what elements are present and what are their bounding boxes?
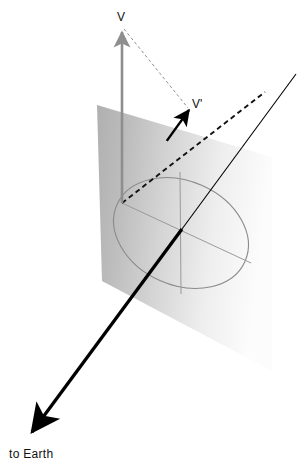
label-v: V [117, 10, 125, 24]
label-to-earth: to Earth [9, 447, 53, 461]
vector-projection-diagram: V V' to Earth [0, 0, 299, 467]
dashed-connector-line [124, 29, 188, 108]
diagram-canvas: V V' to Earth [0, 0, 299, 467]
label-v-prime: V' [192, 97, 202, 111]
